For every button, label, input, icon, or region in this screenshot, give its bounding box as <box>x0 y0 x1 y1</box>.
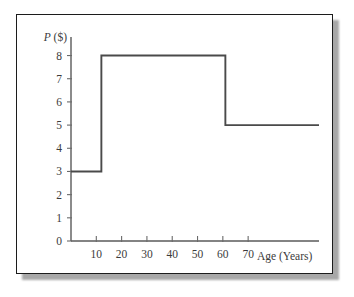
screenshot-root: 012345678 10203040506070 P ($) Age (Year… <box>0 0 354 297</box>
y-tick-label: 0 <box>56 235 62 247</box>
step-function-curve <box>71 56 319 172</box>
x-tick-label: 50 <box>192 248 204 260</box>
figure-frame: 012345678 10203040506070 P ($) Age (Year… <box>16 14 333 274</box>
y-tick-label: 1 <box>56 212 62 224</box>
y-tick-label: 8 <box>56 50 62 62</box>
y-tick-label: 4 <box>56 142 62 154</box>
x-tick-label: 20 <box>116 248 128 260</box>
y-tick-label: 7 <box>56 73 62 85</box>
y-tick-label: 3 <box>56 165 62 177</box>
plot-area: 012345678 10203040506070 P ($) Age (Year… <box>17 15 332 273</box>
x-axis-ticks: 10203040506070 <box>91 236 255 260</box>
step-chart: 012345678 10203040506070 <box>17 15 331 272</box>
y-axis-ticks: 012345678 <box>56 50 72 247</box>
x-tick-label: 40 <box>166 248 178 260</box>
x-tick-label: 10 <box>91 248 103 260</box>
y-tick-label: 2 <box>56 189 62 201</box>
x-tick-label: 70 <box>242 248 254 260</box>
x-tick-label: 30 <box>141 248 153 260</box>
y-tick-label: 5 <box>56 119 62 131</box>
y-tick-label: 6 <box>56 96 62 108</box>
x-tick-label: 60 <box>217 248 229 260</box>
